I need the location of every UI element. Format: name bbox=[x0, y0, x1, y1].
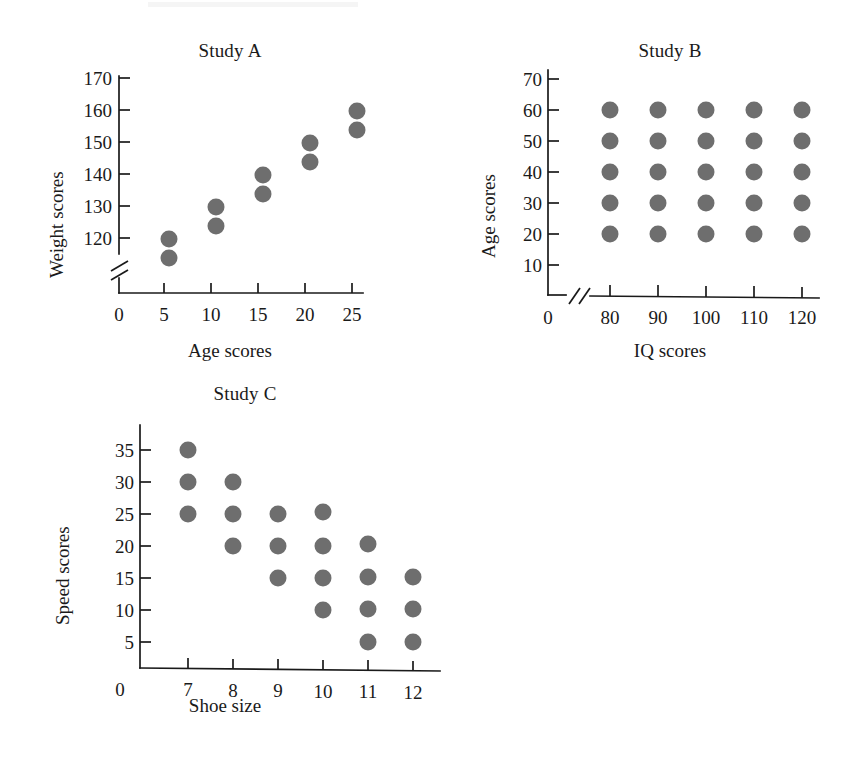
y-tick-label-study-a: 140 bbox=[60, 165, 112, 184]
x-tick-label-study-b: 80 bbox=[585, 308, 635, 327]
x-tick-label-study-c: 9 bbox=[258, 681, 298, 700]
x-tick-label-study-c: 7 bbox=[168, 680, 208, 699]
y-tick-label-study-b: 40 bbox=[492, 163, 542, 182]
origin-label-study-c: 0 bbox=[100, 680, 140, 699]
y-tick-label-study-a: 120 bbox=[60, 229, 112, 248]
y-tick-label-study-b: 60 bbox=[492, 101, 542, 120]
y-tick-label-study-c: 5 bbox=[82, 633, 134, 652]
y-tick-label-study-c: 35 bbox=[82, 441, 134, 460]
y-tick-label-study-b: 30 bbox=[492, 194, 542, 213]
x-tick-label-study-a: 25 bbox=[332, 305, 372, 324]
chart-panel-study-a: Study A Weight scores Age scores bbox=[0, 30, 420, 390]
y-tick-label-study-c: 15 bbox=[82, 569, 134, 588]
origin-label-study-b: 0 bbox=[528, 308, 568, 327]
y-tick-label-study-b: 20 bbox=[492, 225, 542, 244]
y-tick-label-study-b: 10 bbox=[492, 256, 542, 275]
x-tick-label-study-a: 5 bbox=[144, 305, 184, 324]
y-tick-label-study-b: 50 bbox=[492, 132, 542, 151]
data-points-study-c bbox=[180, 442, 422, 651]
y-tick-label-study-a: 170 bbox=[60, 69, 112, 88]
y-tick-label-study-a: 150 bbox=[60, 133, 112, 152]
x-tick-label-study-b: 120 bbox=[774, 308, 830, 327]
y-tick-label-study-c: 25 bbox=[82, 505, 134, 524]
x-tick-label-study-c: 12 bbox=[390, 683, 436, 702]
y-tick-label-study-c: 10 bbox=[82, 601, 134, 620]
chart-panel-study-b: Study B Age scores IQ scores bbox=[430, 30, 845, 390]
plot-area-study-c bbox=[0, 375, 500, 774]
data-points-study-b bbox=[602, 102, 811, 243]
x-tick-label-study-a: 15 bbox=[238, 305, 278, 324]
data-points-study-a bbox=[161, 103, 366, 267]
x-tick-label-study-b: 90 bbox=[633, 308, 683, 327]
y-tick-label-study-c: 30 bbox=[82, 473, 134, 492]
chart-panel-study-c: Study C Speed scores Shoe size bbox=[0, 375, 500, 774]
x-tick-label-study-a: 10 bbox=[191, 305, 231, 324]
y-tick-label-study-b: 70 bbox=[492, 70, 542, 89]
x-tick-label-study-c: 11 bbox=[345, 682, 391, 701]
x-tick-label-study-a: 20 bbox=[285, 305, 325, 324]
x-tick-label-study-c: 10 bbox=[300, 682, 346, 701]
origin-label-study-a: 0 bbox=[99, 305, 139, 324]
y-tick-label-study-a: 130 bbox=[60, 197, 112, 216]
y-tick-label-study-c: 20 bbox=[82, 537, 134, 556]
y-tick-label-study-a: 160 bbox=[60, 101, 112, 120]
scan-artifact bbox=[148, 2, 358, 7]
x-tick-label-study-c: 8 bbox=[213, 681, 253, 700]
